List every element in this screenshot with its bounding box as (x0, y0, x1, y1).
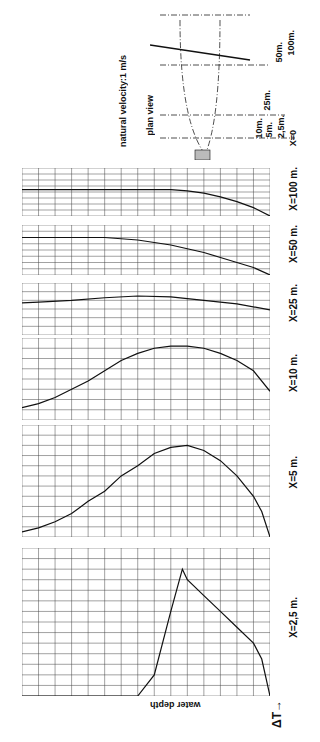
panel-label: X=5 m. (288, 456, 299, 489)
panel-x50m (22, 225, 270, 275)
plan-label-25m: 25m. (262, 90, 272, 111)
plan-label-10m: 10m. (254, 118, 264, 139)
water-depth-label: water depth (150, 700, 201, 710)
panel-x5m (22, 425, 270, 537)
panel-label: X=25 m. (288, 284, 299, 322)
panel-x25m (22, 283, 270, 335)
temperature-curve (22, 445, 270, 537)
plan-label-2-5m: 2,5m. (276, 115, 286, 138)
temperature-curve (22, 190, 270, 216)
plan-label-100m: 100m. (286, 30, 296, 56)
panel-x10m (22, 338, 270, 420)
panel-label: X=10 m. (288, 354, 299, 392)
panel-x100m (22, 168, 270, 216)
temperature-curve (22, 296, 270, 310)
panel-label: X=100 m. (288, 167, 299, 211)
panel-label: X=2,5 m. (288, 597, 299, 638)
plan-label-50m: 50m. (274, 42, 284, 63)
velocity-annotation: natural velocity:1 m/s (118, 55, 128, 147)
temperature-curve (22, 346, 270, 408)
panel-x25m (22, 548, 270, 696)
panel-label: X=50 m. (288, 225, 299, 263)
delta-t-label: ΔT→ (270, 700, 284, 728)
plan-label-x0: X=0 (288, 130, 298, 146)
plan-label-5m: 5m. (264, 122, 274, 138)
